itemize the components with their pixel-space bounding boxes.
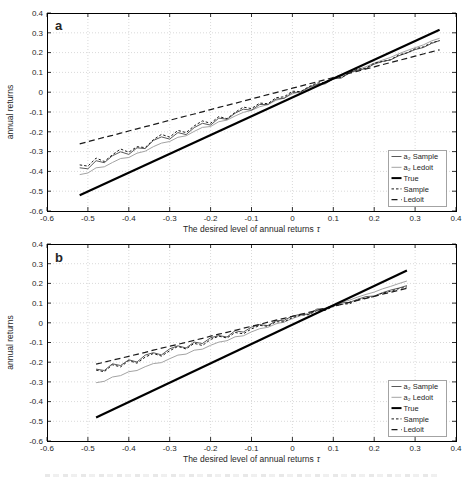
cropped-caption-remnant: [45, 474, 437, 477]
y-tick-label: 0: [39, 88, 44, 97]
x-tick-label: 0.4: [450, 214, 462, 223]
x-tick-label: 0.3: [410, 444, 422, 453]
x-tick-label: -0.4: [122, 214, 136, 223]
x-tick-label: 0: [290, 214, 295, 223]
legend-label: Sample: [404, 415, 429, 424]
x-tick-label: -0.4: [122, 444, 136, 453]
x-tick-label: -0.5: [81, 444, 95, 453]
y-tick-label: 0.4: [32, 240, 44, 249]
figure: -0.6-0.5-0.4-0.3-0.2-0.100.10.20.30.4-0.…: [0, 0, 464, 483]
series-line-dashed: [80, 50, 440, 144]
legend-label: a₂ Ledoit: [404, 163, 435, 172]
panel-letter: b: [55, 250, 63, 265]
y-tick-label: -0.6: [29, 437, 43, 446]
y-tick-label: -0.5: [29, 417, 43, 426]
y-tick-label: 0: [39, 319, 44, 328]
panel-letter: a: [55, 18, 63, 33]
series-line-thin-solid: [80, 41, 440, 169]
y-tick-label: 0.2: [32, 279, 44, 288]
x-tick-label: 0.2: [369, 214, 381, 223]
y-tick-label: -0.4: [29, 397, 43, 406]
y-tick-label: -0.5: [29, 187, 43, 196]
x-tick-label: -0.2: [204, 214, 218, 223]
legend-label: True: [404, 404, 419, 413]
y-tick-label: -0.6: [29, 207, 43, 216]
panel-a-chart: -0.6-0.5-0.4-0.3-0.2-0.100.10.20.30.4-0.…: [0, 0, 464, 238]
x-tick-label: -0.1: [245, 214, 259, 223]
x-axis-label: The desired level of annual returnsτ: [183, 454, 321, 464]
y-tick-label: 0.3: [32, 260, 44, 269]
x-tick-label: 0: [290, 444, 295, 453]
legend-label: Ledoit: [404, 195, 425, 204]
y-axis-label: annual returns: [5, 85, 15, 139]
y-tick-label: -0.1: [29, 108, 43, 117]
y-tick-label: 0.2: [32, 48, 44, 57]
panel-b-chart: -0.6-0.5-0.4-0.3-0.2-0.100.10.20.30.4-0.…: [0, 238, 464, 473]
x-axis-label: The desired level of annual returnsτ: [183, 224, 321, 234]
y-tick-label: -0.4: [29, 167, 43, 176]
x-tick-label: -0.3: [163, 444, 177, 453]
legend-label: Sample: [404, 185, 429, 194]
y-tick-label: 0.1: [32, 68, 44, 77]
legend-label: a₂ Ledoit: [404, 393, 435, 402]
y-tick-label: 0.3: [32, 29, 44, 38]
x-tick-label: -0.5: [81, 214, 95, 223]
x-tick-label: -0.1: [245, 444, 259, 453]
x-tick-label: 0.2: [369, 444, 381, 453]
y-axis-label: annual returns: [5, 315, 15, 369]
legend-label: Ledoit: [404, 425, 425, 434]
y-tick-label: 0.4: [32, 9, 44, 18]
y-tick-label: 0.1: [32, 299, 44, 308]
x-tick-label: 0.1: [328, 214, 340, 223]
x-tick-label: 0.4: [450, 444, 462, 453]
y-tick-label: -0.3: [29, 147, 43, 156]
y-tick-label: -0.2: [29, 128, 43, 137]
y-tick-label: -0.2: [29, 358, 43, 367]
x-tick-label: -0.3: [163, 214, 177, 223]
series-line-thick-solid: [80, 30, 440, 195]
y-tick-label: -0.3: [29, 378, 43, 387]
y-tick-label: -0.1: [29, 338, 43, 347]
legend-label: a₂ Sample: [404, 152, 439, 161]
x-tick-label: 0.3: [410, 214, 422, 223]
legend-label: True: [404, 174, 419, 183]
x-tick-label: 0.1: [328, 444, 340, 453]
x-tick-label: -0.2: [204, 444, 218, 453]
series-line-thin-solid: [80, 38, 440, 174]
legend-label: a₂ Sample: [404, 382, 439, 391]
